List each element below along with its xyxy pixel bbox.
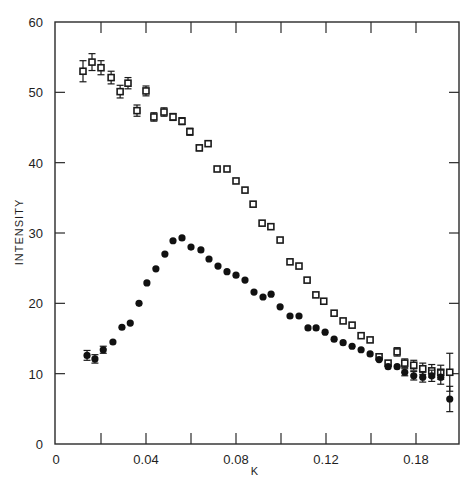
data-point-square <box>394 349 400 355</box>
data-point-square <box>296 263 302 269</box>
data-point-circle <box>385 363 392 370</box>
x-axis-title: K <box>251 465 259 477</box>
data-point-circle <box>322 329 329 336</box>
data-point-square <box>313 292 319 298</box>
y-tick-label: 50 <box>29 85 43 100</box>
data-point-circle <box>340 339 347 346</box>
data-point-square <box>242 187 248 193</box>
data-point-circle <box>304 324 311 331</box>
y-tick-label: 30 <box>29 226 43 241</box>
data-point-circle <box>197 246 204 253</box>
data-point-square <box>117 89 123 95</box>
data-point-circle <box>437 374 444 381</box>
data-point-square <box>179 118 185 124</box>
data-point-square <box>349 322 355 328</box>
data-point-circle <box>100 346 107 353</box>
data-point-circle <box>83 352 90 359</box>
y-tick-label: 20 <box>29 296 43 311</box>
data-point-circle <box>401 369 408 376</box>
data-point-circle <box>367 350 374 357</box>
x-tick-label: 0.18 <box>403 452 428 467</box>
y-axis-ticks: 0102030405060 <box>29 15 459 452</box>
data-point-square <box>331 310 337 316</box>
filled-circle-series <box>83 234 453 411</box>
data-point-square <box>108 75 114 81</box>
data-point-square <box>268 224 274 230</box>
data-point-circle <box>295 312 302 319</box>
data-point-square <box>187 129 193 135</box>
data-point-square <box>367 337 373 343</box>
data-point-circle <box>250 288 257 295</box>
data-point-circle <box>349 343 356 350</box>
data-point-square <box>80 68 86 74</box>
data-point-square <box>447 369 453 375</box>
data-point-square <box>89 59 95 65</box>
data-point-square <box>143 88 149 94</box>
data-point-circle <box>428 372 435 379</box>
data-point-square <box>411 362 417 368</box>
data-point-circle <box>91 355 98 362</box>
data-point-circle <box>118 324 125 331</box>
data-point-circle <box>259 293 266 300</box>
data-point-square <box>224 166 230 172</box>
data-point-circle <box>127 319 134 326</box>
data-point-square <box>250 201 256 207</box>
y-tick-label: 40 <box>29 156 43 171</box>
y-axis-title: INTENSITY <box>13 199 25 265</box>
data-point-circle <box>178 234 185 241</box>
data-point-square <box>287 259 293 265</box>
data-series <box>80 54 454 412</box>
data-point-square <box>196 145 202 151</box>
data-point-square <box>151 114 157 120</box>
data-point-circle <box>187 243 194 250</box>
y-tick-label: 0 <box>36 437 43 452</box>
data-point-circle <box>313 324 320 331</box>
data-point-circle <box>169 237 176 244</box>
data-point-circle <box>394 363 401 370</box>
data-point-square <box>125 80 131 86</box>
intensity-vs-k-chart: 00.040.080.120.18 0102030405060 K INTENS… <box>0 0 474 487</box>
data-point-square <box>259 220 265 226</box>
data-point-square <box>161 109 167 115</box>
x-tick-label: 0.04 <box>133 452 158 467</box>
data-point-square <box>358 333 364 339</box>
plot-border <box>55 22 459 444</box>
data-point-square <box>402 360 408 366</box>
data-point-circle <box>268 291 275 298</box>
x-tick-label: 0.08 <box>223 452 248 467</box>
data-point-circle <box>135 300 142 307</box>
data-point-square <box>420 366 426 372</box>
data-point-square <box>340 318 346 324</box>
data-point-square <box>277 237 283 243</box>
data-point-circle <box>331 336 338 343</box>
data-point-square <box>134 108 140 114</box>
y-tick-label: 10 <box>29 367 43 382</box>
data-point-square <box>214 166 220 172</box>
data-point-square <box>98 65 104 71</box>
data-point-circle <box>376 356 383 363</box>
data-point-circle <box>358 346 365 353</box>
data-point-circle <box>410 372 417 379</box>
data-point-square <box>170 114 176 120</box>
data-point-square <box>321 298 327 304</box>
x-axis-ticks: 00.040.080.120.18 <box>52 22 428 467</box>
data-point-circle <box>152 265 159 272</box>
data-point-circle <box>241 277 248 284</box>
data-point-circle <box>232 272 239 279</box>
data-point-square <box>304 277 310 283</box>
x-tick-label: 0 <box>52 452 59 467</box>
open-square-series <box>80 54 454 392</box>
data-point-circle <box>446 395 453 402</box>
data-point-square <box>233 178 239 184</box>
data-point-circle <box>109 338 116 345</box>
plot-frame <box>55 22 459 444</box>
x-tick-label: 0.12 <box>313 452 338 467</box>
data-point-square <box>205 141 211 147</box>
y-tick-label: 60 <box>29 15 43 30</box>
data-point-circle <box>277 303 284 310</box>
data-point-circle <box>161 251 168 258</box>
data-point-circle <box>214 262 221 269</box>
data-point-circle <box>143 279 150 286</box>
data-point-circle <box>223 268 230 275</box>
data-point-circle <box>419 374 426 381</box>
